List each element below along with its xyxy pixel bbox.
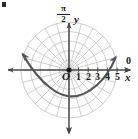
- x-tick-label-4: 4: [105, 72, 110, 82]
- half-pi-denominator: 2: [57, 15, 70, 24]
- half-pi-numerator: π: [57, 4, 70, 13]
- x-axis-label: x: [125, 72, 131, 83]
- x-tick-label-1: 1: [76, 72, 81, 82]
- origin-label: O: [62, 71, 70, 82]
- polar-graph-figure: π 2 y 0 O 1 2 3 4 5 x: [0, 0, 138, 139]
- angle-label-zero: 0: [126, 56, 131, 66]
- x-tick-label-5: 5: [115, 72, 120, 82]
- y-axis-label: y: [74, 14, 79, 25]
- x-tick-label-3: 3: [95, 72, 100, 82]
- x-tick-label-2: 2: [86, 72, 91, 82]
- angle-label-half-pi: π 2: [57, 4, 70, 24]
